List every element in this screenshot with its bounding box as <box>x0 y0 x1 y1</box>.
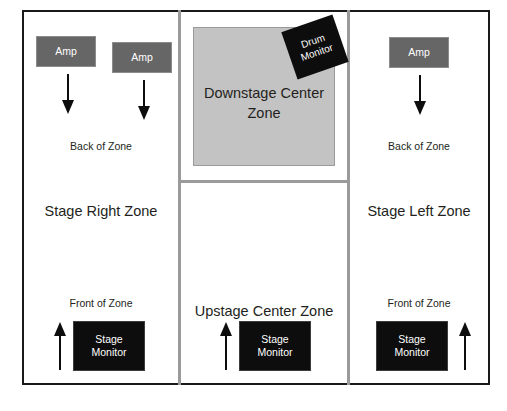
arrow-down-stage-right-1 <box>59 74 77 114</box>
monitor-label-line1: Stage <box>398 333 425 346</box>
zone-title-stage-left: Stage Left Zone <box>350 203 488 219</box>
arrow-up-stage-left <box>456 322 474 370</box>
amp-box-stage-right-2[interactable]: Amp <box>112 42 172 73</box>
amp-box-stage-right-1[interactable]: Amp <box>36 36 96 67</box>
monitor-label-line2: Monitor <box>257 346 292 359</box>
label-back-of-zone-stage-right: Back of Zone <box>24 140 178 152</box>
stage-monitor-stage-right[interactable]: Stage Monitor <box>73 321 145 371</box>
zone-title-downstage-center-line1: Downstage Center <box>194 84 334 102</box>
amp-label: Amp <box>55 45 77 57</box>
monitor-label-line2: Monitor <box>91 346 126 359</box>
zone-upstage-center[interactable]: Upstage Center Zone Stage Monitor <box>181 183 347 383</box>
zone-stage-left[interactable]: Amp Back of Zone Stage Left Zone Front o… <box>350 12 488 383</box>
monitor-label-line1: Stage <box>261 333 288 346</box>
arrow-down-stage-right-2 <box>135 80 153 120</box>
monitor-label-line1: Stage <box>95 333 122 346</box>
stage-monitor-upstage-center[interactable]: Stage Monitor <box>239 321 311 371</box>
label-front-of-zone-stage-right: Front of Zone <box>24 297 178 309</box>
arrow-down-stage-left <box>411 75 429 115</box>
monitor-label-line2: Monitor <box>394 346 429 359</box>
arrow-up-stage-right <box>51 322 69 370</box>
zone-stage-right[interactable]: Amp Amp Back of Zone Stage Right Zone Fr… <box>24 12 178 383</box>
amp-label: Amp <box>408 46 430 58</box>
zone-title-downstage-center-line2: Zone <box>194 104 334 122</box>
amp-label: Amp <box>131 51 153 63</box>
arrow-up-upstage-center <box>217 322 235 370</box>
zone-title-stage-right: Stage Right Zone <box>24 203 178 219</box>
stage-monitor-stage-left[interactable]: Stage Monitor <box>376 321 448 371</box>
label-front-of-zone-stage-left: Front of Zone <box>350 297 488 309</box>
stage-zone-diagram: Amp Amp Back of Zone Stage Right Zone Fr… <box>0 0 507 411</box>
zone-title-upstage-center: Upstage Center Zone <box>181 303 347 319</box>
label-back-of-zone-stage-left: Back of Zone <box>350 140 488 152</box>
amp-box-stage-left-1[interactable]: Amp <box>389 37 449 68</box>
